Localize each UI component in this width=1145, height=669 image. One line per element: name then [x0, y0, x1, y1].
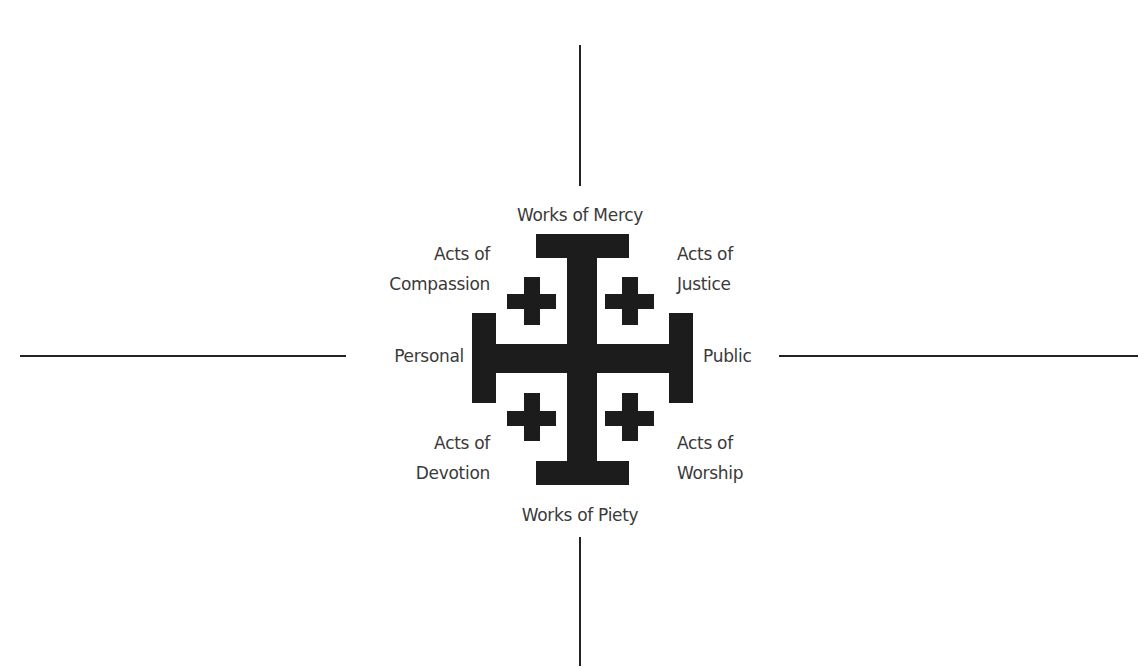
- small-cross-br-v: [622, 393, 638, 441]
- cross-bottom-bar: [536, 461, 629, 485]
- label-works-of-piety: Works of Piety: [480, 500, 680, 530]
- label-works-of-mercy: Works of Mercy: [480, 200, 680, 230]
- label-compassion-line2: Compassion: [340, 269, 490, 299]
- label-public: Public: [703, 341, 752, 371]
- label-personal: Personal: [340, 341, 464, 371]
- small-cross-bl-v: [524, 393, 540, 441]
- small-cross-tl-v: [524, 277, 540, 325]
- cross-top-bar: [536, 234, 629, 258]
- small-cross-tr-v: [622, 277, 638, 325]
- label-justice-line1: Acts of: [677, 239, 733, 269]
- label-devotion-line1: Acts of: [340, 428, 490, 458]
- cross-horizontal-arm: [494, 344, 671, 373]
- label-worship-line2: Worship: [677, 458, 743, 488]
- cross-right-bar: [669, 313, 693, 403]
- label-devotion-line2: Devotion: [340, 458, 490, 488]
- label-justice-line2: Justice: [677, 269, 731, 299]
- label-compassion-line1: Acts of: [340, 239, 490, 269]
- cross-left-bar: [472, 313, 496, 403]
- jerusalem-cross-icon: [0, 0, 1145, 669]
- label-worship-line1: Acts of: [677, 428, 733, 458]
